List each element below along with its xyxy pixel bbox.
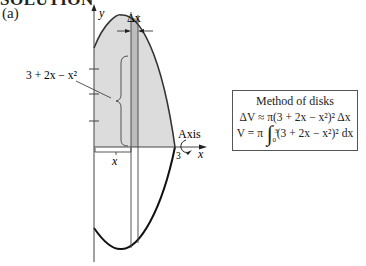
y-axis-arrow-icon — [92, 4, 97, 11]
delta-x-label: Δx — [127, 11, 141, 25]
integral-sign: ∫30 — [267, 125, 273, 143]
representative-strip — [131, 18, 138, 147]
lower-limit: 0 — [272, 131, 276, 149]
integrand: (3 + 2x − x²)² dx — [277, 127, 353, 139]
volume-element-formula: ΔV ≈ π(3 + 2x − x²)² Δx — [233, 110, 357, 125]
function-label: 3 + 2x − x² — [26, 69, 77, 81]
axis-of-rotation-label: Axis — [178, 127, 201, 141]
rotation-arrow-icon — [181, 140, 190, 153]
volume-prefix: V = π — [237, 127, 263, 139]
x-axis-label: x — [197, 147, 204, 161]
y-axis-label: y — [98, 6, 105, 20]
root-label: 3 — [176, 151, 181, 161]
x-distance-bracket — [95, 148, 131, 152]
method-title: Method of disks — [233, 94, 357, 109]
method-of-disks-box: Method of disks ΔV ≈ π(3 + 2x − x²)² Δx … — [232, 90, 358, 151]
x-distance-label: x — [111, 154, 118, 168]
reflected-curve — [94, 147, 175, 249]
volume-integral-formula: V = π ∫30 (3 + 2x − x²)² dx — [233, 125, 357, 143]
